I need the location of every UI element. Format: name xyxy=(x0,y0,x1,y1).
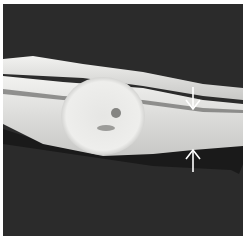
nodule xyxy=(61,77,145,155)
nodule-spot xyxy=(111,108,121,118)
nodule-spot xyxy=(97,125,115,131)
specimen-illustration xyxy=(3,4,243,236)
specimen-photo xyxy=(3,4,243,236)
